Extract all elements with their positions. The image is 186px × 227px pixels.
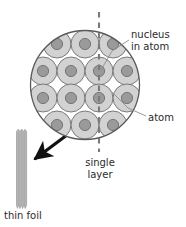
nucleus xyxy=(65,65,76,76)
atom xyxy=(113,57,141,85)
atom-row-4 xyxy=(43,111,127,139)
atom xyxy=(29,57,57,85)
atom xyxy=(57,84,85,112)
nucleus xyxy=(121,92,132,103)
label-single-layer: single layer xyxy=(78,157,122,180)
atom xyxy=(85,57,113,85)
atom xyxy=(29,84,57,112)
atom xyxy=(71,111,99,139)
thin-foil-shape xyxy=(17,129,27,209)
atom xyxy=(113,84,141,112)
atom xyxy=(71,30,99,58)
nucleus xyxy=(121,65,132,76)
atom-lattice xyxy=(28,28,144,144)
label-atom: atom xyxy=(148,112,174,124)
label-thin-foil: thin foil xyxy=(4,210,42,222)
nucleus xyxy=(79,38,90,49)
label-nucleus-line1: nucleus xyxy=(131,29,170,41)
atom xyxy=(57,57,85,85)
label-single-layer-line2: layer xyxy=(78,169,122,181)
figure-container: nucleus in atom atom single layer thin f… xyxy=(0,0,186,227)
atom-row-1 xyxy=(43,30,127,58)
nucleus xyxy=(79,119,90,130)
label-nucleus-in-atom: nucleus in atom xyxy=(131,29,170,52)
label-single-layer-line1: single xyxy=(78,157,122,169)
nucleus xyxy=(37,65,48,76)
nucleus xyxy=(65,92,76,103)
nucleus xyxy=(37,92,48,103)
label-nucleus-line2: in atom xyxy=(131,41,170,53)
